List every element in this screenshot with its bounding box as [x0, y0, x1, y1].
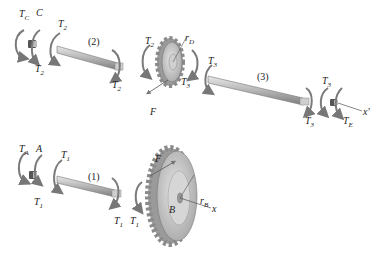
label-t3-right: T3	[305, 116, 314, 129]
torque-arrow-t3-gear	[191, 50, 198, 78]
label-t1-below-a: T1	[34, 197, 43, 210]
label-t3-e: T3	[322, 76, 331, 89]
torque-arrow-tc	[16, 30, 24, 58]
label-t2-below-c: T2	[35, 64, 44, 77]
label-tc: TC	[19, 9, 29, 22]
label-shaft-1: (1)	[88, 172, 100, 182]
axis-x-prime	[338, 103, 362, 111]
label-x: x	[212, 204, 216, 214]
torque-arrow-t1-a	[35, 155, 42, 183]
torque-arrow-t2-gear	[143, 45, 150, 76]
label-shaft-2: (2)	[88, 37, 100, 47]
label-t1-right: T1	[114, 216, 123, 229]
label-t1-top-left: T1	[61, 150, 70, 163]
label-rb: rB	[200, 196, 208, 209]
torque-arrow-t1-left	[54, 160, 62, 191]
torque-arrow-t3-e	[321, 88, 328, 114]
torque-arrow-t1-gear	[136, 182, 142, 210]
label-shaft-3: (3)	[257, 72, 269, 82]
label-rd: rD	[185, 33, 194, 46]
shaft-gear-diagram: TC C T2 T2 (2) T2 T2 rD T3 F T3 (3) T3 T…	[0, 0, 386, 258]
label-te: TE	[343, 116, 353, 129]
label-t3-left: T3	[208, 56, 217, 69]
label-t1-gear: T1	[130, 216, 139, 229]
label-b: B	[169, 205, 175, 215]
label-t2-right: T2	[112, 80, 121, 93]
label-c: C	[36, 8, 43, 18]
label-x-prime: x′	[363, 107, 370, 117]
label-t2-top-left: T2	[58, 19, 67, 32]
label-ta: TA	[19, 144, 29, 157]
torque-arrow-te	[336, 88, 342, 116]
label-f-bottom: F	[155, 154, 161, 164]
label-f-top: F	[150, 107, 156, 117]
label-t2-gear: T2	[145, 36, 154, 49]
label-a: A	[36, 144, 42, 154]
label-t3-gear: T3	[181, 77, 190, 90]
